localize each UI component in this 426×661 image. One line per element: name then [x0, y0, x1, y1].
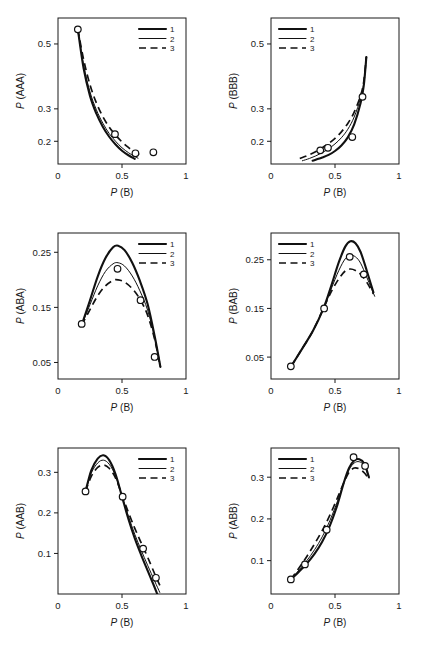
- chart-panel-middle-left: 0.050.150.2500.51P (B)P (ABA)123: [0, 217, 213, 430]
- x-tick-label: 0.5: [115, 170, 128, 181]
- y-tick-label: 0.2: [38, 136, 51, 147]
- data-point-marker: [140, 545, 147, 552]
- legend: 123: [137, 453, 181, 484]
- legend-label-3: 3: [170, 259, 175, 268]
- data-point-marker: [75, 26, 82, 33]
- x-tick-label: 0.5: [328, 170, 341, 181]
- legend-label-1: 1: [310, 25, 315, 34]
- data-point-marker: [349, 134, 356, 141]
- legend: 123: [277, 453, 321, 484]
- legend-label-2: 2: [170, 465, 175, 474]
- data-point-marker: [150, 149, 157, 156]
- y-tick-label: 0.2: [251, 513, 264, 524]
- y-axis-title: P (ABB): [228, 503, 239, 539]
- x-tick-label: 1: [183, 385, 188, 396]
- legend-label-1: 1: [170, 240, 175, 249]
- data-point-marker: [323, 526, 330, 533]
- figure-six-panel-probability-plots: 0.20.30.500.51P (B)P (AAA)1230.20.30.500…: [0, 0, 426, 661]
- y-axis-title: P (BAB): [228, 288, 239, 324]
- y-tick-label: 0.25: [33, 247, 52, 258]
- data-point-marker: [132, 150, 139, 157]
- data-point-marker: [288, 363, 295, 370]
- y-axis-title: P (BBB): [228, 73, 239, 109]
- x-axis-title: P (B): [111, 617, 134, 628]
- y-tick-label: 0.2: [38, 507, 51, 518]
- legend: 123: [277, 238, 321, 269]
- x-tick-label: 0: [268, 170, 273, 181]
- data-point-marker: [317, 147, 324, 154]
- legend-label-2: 2: [310, 250, 315, 259]
- x-tick-label: 0: [55, 600, 60, 611]
- legend-label-3: 3: [170, 474, 175, 483]
- data-point-marker: [302, 561, 309, 568]
- chart-panel-bottom-left: 0.10.20.300.51P (B)P (AAB)123: [0, 432, 213, 645]
- data-point-marker: [78, 321, 85, 328]
- chart-panel-top-right: 0.20.30.500.51P (B)P (BBB)123: [213, 2, 426, 215]
- x-tick-label: 0: [55, 385, 60, 396]
- y-axis-title: P (AAB): [15, 503, 26, 539]
- x-axis-title: P (B): [111, 402, 134, 413]
- legend-label-3: 3: [170, 44, 175, 53]
- chart-panel-middle-right: 0.050.150.2500.51P (B)P (BAB)123: [213, 217, 426, 430]
- legend-label-1: 1: [310, 455, 315, 464]
- x-tick-label: 1: [396, 600, 401, 611]
- x-tick-label: 0.5: [115, 600, 128, 611]
- data-point-marker: [325, 144, 332, 151]
- x-axis-title: P (B): [324, 187, 347, 198]
- x-axis-title: P (B): [324, 402, 347, 413]
- legend-label-2: 2: [170, 35, 175, 44]
- legend-label-1: 1: [310, 240, 315, 249]
- y-tick-label: 0.25: [246, 254, 265, 265]
- y-tick-label: 0.2: [251, 136, 264, 147]
- legend-label-3: 3: [310, 259, 315, 268]
- y-tick-label: 0.3: [38, 467, 51, 478]
- data-point-marker: [119, 493, 126, 500]
- legend-label-2: 2: [170, 250, 175, 259]
- legend-label-2: 2: [310, 35, 315, 44]
- data-point-marker: [153, 574, 160, 581]
- chart-panel-bottom-right: 0.10.20.300.51P (B)P (ABB)123: [213, 432, 426, 645]
- legend: 123: [277, 23, 321, 54]
- y-tick-label: 0.05: [246, 352, 265, 363]
- x-tick-label: 0.5: [115, 385, 128, 396]
- data-point-marker: [362, 463, 369, 470]
- legend: 123: [137, 23, 181, 54]
- x-tick-label: 0.5: [328, 385, 341, 396]
- x-tick-label: 0.5: [328, 600, 341, 611]
- y-tick-label: 0.05: [33, 357, 52, 368]
- data-point-marker: [350, 454, 357, 461]
- y-axis-title: P (AAA): [15, 73, 26, 109]
- x-tick-label: 0: [268, 600, 273, 611]
- legend-label-3: 3: [310, 474, 315, 483]
- y-tick-label: 0.3: [251, 103, 264, 114]
- figure-caption: [0, 652, 426, 661]
- data-point-marker: [137, 297, 144, 304]
- legend-label-2: 2: [310, 465, 315, 474]
- y-tick-label: 0.1: [251, 555, 264, 566]
- y-tick-label: 0.5: [251, 38, 264, 49]
- x-tick-label: 1: [183, 600, 188, 611]
- y-tick-label: 0.15: [246, 303, 265, 314]
- y-tick-label: 0.1: [38, 548, 51, 559]
- y-axis-title: P (ABA): [15, 288, 26, 324]
- data-point-marker: [346, 254, 353, 261]
- legend: 123: [137, 238, 181, 269]
- y-tick-label: 0.5: [38, 38, 51, 49]
- data-point-marker: [112, 131, 119, 138]
- legend-label-1: 1: [170, 455, 175, 464]
- x-axis-title: P (B): [111, 187, 134, 198]
- data-point-marker: [82, 488, 89, 495]
- data-point-marker: [288, 576, 295, 583]
- y-tick-label: 0.15: [33, 302, 52, 313]
- x-tick-label: 1: [183, 170, 188, 181]
- x-axis-title: P (B): [324, 617, 347, 628]
- legend-label-1: 1: [170, 25, 175, 34]
- x-tick-label: 0: [268, 385, 273, 396]
- data-point-marker: [359, 94, 366, 101]
- legend-label-3: 3: [310, 44, 315, 53]
- data-point-marker: [361, 271, 368, 278]
- data-point-marker: [151, 354, 158, 361]
- data-point-marker: [321, 305, 328, 312]
- y-tick-label: 0.3: [38, 103, 51, 114]
- x-tick-label: 0: [55, 170, 60, 181]
